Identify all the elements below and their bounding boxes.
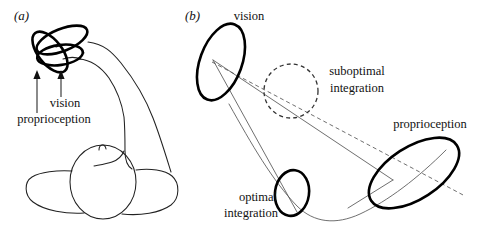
sensory-ellipse-cluster <box>26 20 91 79</box>
shoulder-right-shape <box>122 169 178 214</box>
panel-b-proprioception-label: proprioception <box>393 117 467 131</box>
panel-b: (b) vision suboptimal integration propri… <box>185 8 471 223</box>
suboptimal-integration-circle <box>264 64 318 118</box>
panel-b-label: (b) <box>185 8 200 23</box>
head-tuft-icon <box>99 145 106 150</box>
panel-b-vision-label: vision <box>234 9 265 23</box>
suboptimal-integration-label-line1: suboptimal <box>329 64 385 78</box>
vision-arrow <box>57 70 64 97</box>
vision-ellipse <box>188 17 255 107</box>
suboptimal-integration-label-line2: integration <box>330 81 385 95</box>
figure-canvas: (a) <box>0 0 493 233</box>
panel-a: (a) <box>14 8 178 219</box>
optimal-integration-label-line1: optimal <box>239 190 278 204</box>
arm-outer-contour <box>88 42 171 172</box>
panel-a-vision-label: vision <box>50 96 81 110</box>
panel-a-proprioception-label: proprioception <box>17 112 91 126</box>
forearm-lower-edge <box>94 151 124 166</box>
figure-root: (a) <box>0 0 493 233</box>
proprioception-arrow <box>33 70 40 113</box>
torso-shape <box>26 171 84 213</box>
integration-triangle-upper <box>213 60 393 180</box>
panel-a-label: (a) <box>14 8 29 23</box>
proprioception-arrow-head <box>33 70 40 79</box>
proprioception-ellipse <box>357 123 471 222</box>
optimal-integration-label-line2: integration <box>224 206 279 220</box>
head-shape <box>70 145 136 219</box>
